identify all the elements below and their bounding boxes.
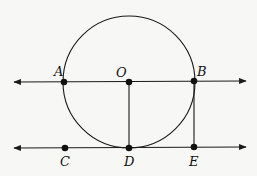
point-D: [126, 145, 133, 152]
label-D: D: [123, 154, 135, 169]
label-C: C: [60, 154, 70, 169]
point-A: [61, 79, 68, 86]
point-C: [62, 145, 69, 152]
point-E: [191, 144, 198, 151]
point-O: [126, 79, 133, 86]
label-O: O: [116, 65, 127, 80]
geometry-diagram: AOBCDE: [0, 0, 257, 176]
label-A: A: [53, 64, 63, 79]
label-E: E: [188, 154, 199, 169]
label-B: B: [196, 64, 207, 79]
